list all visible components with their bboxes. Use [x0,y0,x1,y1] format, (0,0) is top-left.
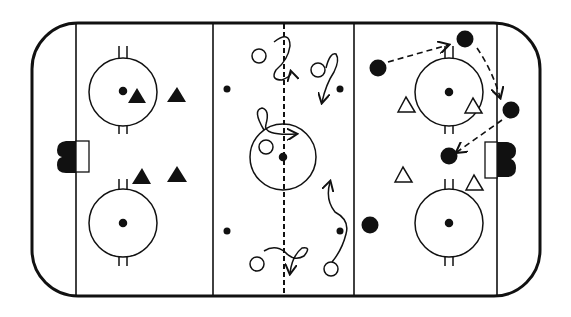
net-right [485,142,516,178]
circle-player [503,102,520,119]
circle-player [362,217,379,234]
circle-player [457,31,474,48]
circle-player [259,140,273,154]
hockey-rink [0,0,571,317]
circle-player [250,257,264,271]
circle-player [370,60,387,77]
circle-player [441,148,458,165]
circle-player [324,262,338,276]
circle-player [252,49,266,63]
circle-player [311,63,325,77]
